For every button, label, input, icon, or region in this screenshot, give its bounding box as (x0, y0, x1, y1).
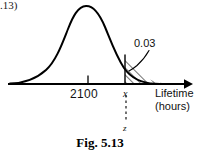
tail-area-label: 0.03 (134, 38, 155, 49)
x-axis-label-line1: Lifetime (155, 88, 194, 99)
threshold-label-x: x (123, 89, 127, 99)
x-axis-label-line2: (hours) (155, 101, 190, 112)
figure-caption: Fig. 5.13 (0, 136, 200, 149)
zscore-label-z: z (123, 124, 127, 133)
normal-distribution-plot (0, 0, 200, 153)
figure-container: .13) 0.03 2100 x z Lifetime (hours) Fig.… (0, 0, 200, 153)
corner-equation-fragment: .13) (0, 0, 17, 11)
mean-tick-label: 2100 (70, 88, 98, 100)
